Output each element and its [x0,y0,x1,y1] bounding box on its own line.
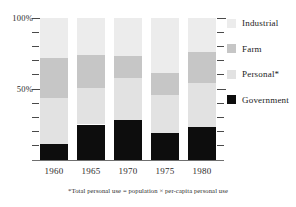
legend-swatch-icon [227,44,236,53]
y-tick-20 [217,131,224,132]
legend-item-government: Government [227,95,296,105]
bar-segment-1965-industrial [77,18,105,55]
bar-1970 [114,18,142,160]
stacked-bar-chart: 100%50% 19601965197019751980 IndustrialF… [0,0,296,207]
bar-segment-1970-personal [114,78,142,121]
bar-segment-1980-industrial [188,18,216,52]
bar-segment-1960-government [40,144,68,160]
y-tick-10 [32,145,39,146]
x-axis-label-1975: 1975 [145,166,185,176]
x-axis-line [32,160,224,161]
bar-1960 [40,18,68,160]
bar-segment-1975-government [151,133,179,160]
x-axis-label-1960: 1960 [34,166,74,176]
y-axis-label-0: 100% [0,13,33,23]
y-tick-60 [217,74,224,75]
legend-item-industrial: Industrial [227,18,296,28]
legend-label: Government [242,95,289,105]
y-tick-30 [32,117,39,118]
y-axis-label-1: 50% [0,84,33,94]
y-tick-70 [217,60,224,61]
x-axis-label-1970: 1970 [108,166,148,176]
legend-label: Industrial [242,18,279,28]
bar-segment-1965-government [77,125,105,161]
bar-segment-1960-farm [40,58,68,98]
y-tick-30 [217,117,224,118]
bar-segment-1980-personal [188,83,216,127]
bar-segment-1970-farm [114,56,142,77]
bar-segment-1960-personal [40,98,68,145]
bar-segment-1965-farm [77,55,105,88]
legend-item-personal: Personal* [227,69,296,79]
y-tick-80 [217,46,224,47]
bar-segment-1965-personal [77,88,105,125]
bar-1980 [188,18,216,160]
bar-segment-1980-farm [188,52,216,83]
x-axis-label-1965: 1965 [71,166,111,176]
y-tick-60 [32,74,39,75]
bar-segment-1975-personal [151,95,179,133]
y-tick-20 [32,131,39,132]
legend: IndustrialFarmPersonal*Government [227,18,296,120]
bar-segment-1975-industrial [151,18,179,73]
bar-segment-1975-farm [151,73,179,94]
y-tick-10 [217,145,224,146]
y-tick-100 [217,18,226,19]
y-tick-90 [32,32,39,33]
legend-swatch-icon [227,19,236,28]
bar-segment-1970-industrial [114,18,142,56]
legend-swatch-icon [227,95,236,104]
y-tick-50 [217,89,226,90]
y-tick-90 [217,32,224,33]
bar-1975 [151,18,179,160]
y-tick-40 [32,103,39,104]
legend-item-farm: Farm [227,44,296,54]
bar-1965 [77,18,105,160]
bar-segment-1960-industrial [40,18,68,58]
y-tick-40 [217,103,224,104]
y-tick-80 [32,46,39,47]
footnote: *Total personal use = population × per-c… [0,187,296,194]
bar-segment-1970-government [114,120,142,160]
y-tick-70 [32,60,39,61]
bar-segment-1980-government [188,127,216,160]
x-axis-label-1980: 1980 [182,166,222,176]
legend-label: Farm [242,44,262,54]
legend-label: Personal* [242,69,279,79]
legend-swatch-icon [227,70,236,79]
